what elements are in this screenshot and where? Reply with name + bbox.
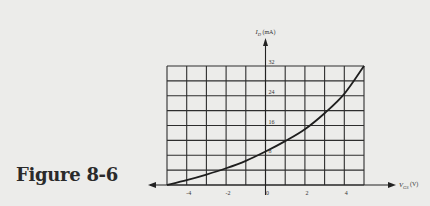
- x-axis-left-arrow-icon: [148, 182, 156, 188]
- x-axis-right-arrow-icon: [388, 182, 396, 188]
- x-tick-label: 0: [266, 190, 269, 196]
- y-tick-label: 32: [269, 59, 275, 65]
- y-tick-label: 24: [269, 89, 275, 95]
- x-tick-label: -2: [226, 190, 231, 196]
- x-tick-label: 4: [345, 190, 348, 196]
- y-tick-label: 8: [269, 148, 272, 154]
- y-axis-title: ID (mA): [255, 28, 276, 37]
- transfer-characteristic-chart: -4-20248162432ID (mA)VGS (V): [0, 0, 430, 206]
- y-tick-label: 16: [269, 119, 275, 125]
- y-axis-arrow-icon: [263, 38, 268, 46]
- x-axis-title: VGS (V): [399, 181, 418, 190]
- x-tick-label: -4: [186, 190, 191, 196]
- x-tick-label: 2: [305, 190, 308, 196]
